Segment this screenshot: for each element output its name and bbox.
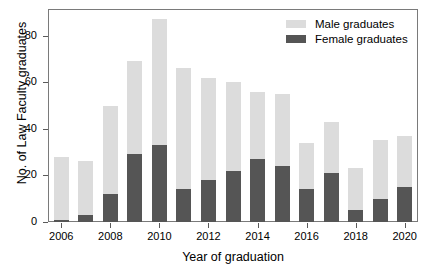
- bar-2011: [176, 68, 191, 222]
- bar-segment-female: [250, 159, 265, 222]
- bar-2015: [275, 94, 290, 222]
- bar-segment-female: [152, 145, 167, 222]
- bar-segment-male: [78, 161, 93, 215]
- legend-label: Male graduates: [315, 18, 394, 30]
- bar-segment-male: [103, 106, 118, 195]
- bar-2008: [103, 106, 118, 222]
- bar-segment-female: [226, 171, 241, 222]
- bar-segment-male: [299, 143, 314, 190]
- bar-segment-female: [324, 173, 339, 222]
- legend-label: Female graduates: [315, 33, 408, 45]
- y-tick-mark: [43, 222, 48, 223]
- x-tick-label: 2020: [385, 230, 425, 242]
- legend-swatch: [286, 20, 306, 28]
- x-tick-label: 2006: [41, 230, 81, 242]
- bar-2018: [348, 168, 363, 222]
- bar-2006: [54, 157, 69, 222]
- bar-2016: [299, 143, 314, 222]
- x-tick-mark: [405, 223, 406, 228]
- bar-segment-female: [54, 220, 69, 222]
- bar-2012: [201, 78, 216, 222]
- bar-segment-male: [152, 19, 167, 145]
- bar-segment-male: [275, 94, 290, 166]
- legend-item-female: Female graduates: [286, 31, 408, 46]
- bar-segment-male: [348, 168, 363, 210]
- bar-segment-female: [275, 166, 290, 222]
- bar-segment-female: [78, 215, 93, 222]
- x-tick-label: 2008: [90, 230, 130, 242]
- x-tick-mark: [110, 223, 111, 228]
- x-tick-mark: [356, 223, 357, 228]
- bar-2019: [373, 140, 388, 222]
- x-tick-label: 2018: [336, 230, 376, 242]
- x-tick-label: 2012: [188, 230, 228, 242]
- bar-segment-female: [373, 199, 388, 222]
- chart-figure: 020406080 200620082010201220142016201820…: [0, 0, 428, 274]
- bar-segment-female: [397, 187, 412, 222]
- bar-2020: [397, 136, 412, 222]
- x-tick-label: 2014: [238, 230, 278, 242]
- y-tick-label: 0: [11, 216, 37, 227]
- x-tick-label: 2010: [139, 230, 179, 242]
- bar-2017: [324, 122, 339, 222]
- y-tick-mark: [43, 175, 48, 176]
- bar-segment-female: [201, 180, 216, 222]
- y-tick-mark: [43, 129, 48, 130]
- y-tick-mark: [43, 36, 48, 37]
- bar-2010: [152, 19, 167, 222]
- bar-2014: [250, 92, 265, 222]
- y-axis-label: No. of Law Faculty graduates: [15, 8, 29, 198]
- bar-2009: [127, 61, 142, 222]
- bar-segment-male: [324, 122, 339, 173]
- bar-segment-male: [373, 140, 388, 198]
- x-tick-label: 2016: [287, 230, 327, 242]
- legend-item-male: Male graduates: [286, 16, 408, 31]
- x-tick-mark: [258, 223, 259, 228]
- x-tick-mark: [61, 223, 62, 228]
- bar-segment-female: [103, 194, 118, 222]
- x-tick-mark: [159, 223, 160, 228]
- bar-segment-male: [201, 78, 216, 181]
- x-tick-mark: [307, 223, 308, 228]
- bar-segment-female: [299, 189, 314, 222]
- bar-segment-male: [397, 136, 412, 187]
- bar-segment-male: [250, 92, 265, 160]
- y-tick-mark: [43, 82, 48, 83]
- bar-2013: [226, 82, 241, 222]
- x-axis-label: Year of graduation: [48, 250, 418, 264]
- bar-segment-male: [176, 68, 191, 189]
- bar-segment-male: [226, 82, 241, 171]
- legend: Male graduatesFemale graduates: [286, 16, 408, 46]
- bar-segment-male: [127, 61, 142, 154]
- legend-swatch: [286, 35, 306, 43]
- bar-segment-female: [348, 210, 363, 222]
- x-tick-mark: [208, 223, 209, 228]
- bar-segment-female: [127, 154, 142, 222]
- bar-segment-male: [54, 157, 69, 220]
- bar-segment-female: [176, 189, 191, 222]
- bar-2007: [78, 161, 93, 222]
